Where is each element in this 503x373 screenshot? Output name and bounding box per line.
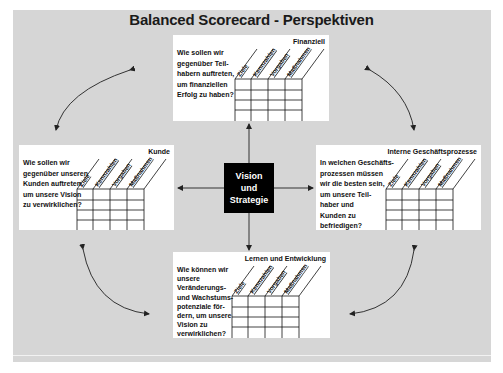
curved-arrow-top-right — [370, 70, 414, 130]
column-header: Maßnahmen — [128, 155, 154, 187]
card-label: Finanziell — [293, 38, 325, 45]
vision-strategy-box: Vision und Strategie — [224, 163, 274, 213]
column-header: Ziele — [236, 62, 249, 77]
card-question: Wie können wir unsere Veränderungs- und … — [177, 265, 233, 339]
column-header: Maßnahmen — [437, 155, 463, 187]
card-label: Kunde — [148, 148, 170, 155]
column-header: Ziele — [387, 172, 400, 187]
curved-arrow-bottom-left — [83, 249, 149, 314]
perspective-card-kunde: Kunde Wie sollen wir gegenüber unseren K… — [19, 145, 174, 230]
scorecard-matrix: Ziele Kennzahlen Vorgaben Maßnahmen — [232, 262, 324, 338]
perspective-card-finanziell: Finanziell Wie sollen wir gegenüber Teil… — [173, 35, 329, 121]
perspective-card-lernen-und-entwicklung: Lernen und Entwicklung Wie können wir un… — [173, 252, 330, 338]
column-header: Ziele — [78, 172, 91, 187]
scorecard-matrix: Ziele Kennzahlen Vorgaben Maßnahmen — [77, 155, 169, 231]
card-label: Lernen und Entwicklung — [245, 255, 326, 262]
card-question: Wie sollen wir gegenüber Teil- habern au… — [177, 48, 234, 101]
scorecard-matrix: Ziele Kennzahlen Vorgaben Maßnahmen — [386, 155, 478, 231]
column-header: Maßnahmen — [286, 45, 312, 77]
column-header: Ziele — [233, 279, 246, 294]
curved-arrow-bottom-right — [350, 250, 414, 314]
scorecard-matrix: Ziele Kennzahlen Vorgaben Maßnahmen — [235, 45, 327, 121]
column-header: Maßnahmen — [283, 262, 309, 294]
perspective-card-interne-geschaeftsprozesse: Interne Geschäftsprozesse In welchen Ges… — [316, 145, 481, 230]
curved-arrow-top-left — [56, 70, 130, 130]
card-label: Interne Geschäftsprozesse — [388, 148, 477, 155]
card-question: In welchen Geschäfts- prozessen müssen w… — [320, 158, 394, 232]
